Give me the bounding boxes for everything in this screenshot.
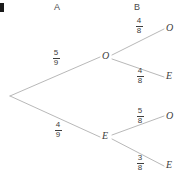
probability-e-o-numerator: 5 [133, 107, 147, 115]
probability-e-e-numerator: 3 [133, 154, 147, 162]
probability-a-e: 4 9 [51, 121, 65, 140]
probability-o-o: 4 8 [132, 17, 146, 36]
column-header-b: B [134, 2, 140, 12]
probability-o-o-denominator: 8 [132, 27, 146, 35]
node-label-a-e: E [102, 130, 108, 141]
probability-e-e: 3 8 [133, 154, 147, 173]
probability-a-o-denominator: 9 [49, 59, 63, 67]
probability-o-e-denominator: 8 [133, 77, 147, 85]
probability-tree-diagram: A B O E O E O E 5 9 4 9 4 8 4 8 5 8 3 8 [0, 0, 178, 179]
column-header-a: A [54, 2, 60, 12]
leaf-label-e-e: E [166, 159, 172, 170]
probability-o-e-numerator: 4 [133, 67, 147, 75]
probability-a-o-numerator: 5 [49, 49, 63, 57]
probability-e-o: 5 8 [133, 107, 147, 126]
node-label-a-o: O [102, 50, 109, 61]
tree-branch-lines [0, 0, 178, 179]
probability-a-e-denominator: 9 [51, 131, 65, 139]
probability-a-o: 5 9 [49, 49, 63, 68]
probability-o-o-numerator: 4 [132, 17, 146, 25]
leaf-label-e-o: O [166, 110, 173, 121]
probability-e-e-denominator: 8 [133, 164, 147, 172]
probability-a-e-numerator: 4 [51, 121, 65, 129]
probability-o-e: 4 8 [133, 67, 147, 86]
leaf-label-o-o: O [166, 22, 173, 33]
leaf-label-o-e: E [166, 70, 172, 81]
probability-e-o-denominator: 8 [133, 117, 147, 125]
